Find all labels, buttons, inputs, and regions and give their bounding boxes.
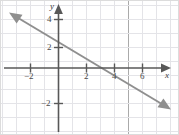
x-tick-label-4: 4: [112, 72, 117, 81]
y-tick-label-4: 4: [47, 15, 52, 24]
x-tick-label-6: 6: [140, 72, 145, 81]
y-tick-label-2: 2: [47, 43, 52, 52]
graph-canvas: [0, 0, 179, 135]
x-axis-label: x: [165, 71, 169, 80]
coordinate-plane-figure: −2 2 4 6 −2 2 4 y x: [0, 0, 179, 135]
y-tick-label-neg2: −2: [41, 99, 51, 108]
y-axis-label: y: [50, 2, 54, 11]
x-tick-label-neg2: −2: [24, 72, 34, 81]
x-tick-label-2: 2: [84, 72, 89, 81]
